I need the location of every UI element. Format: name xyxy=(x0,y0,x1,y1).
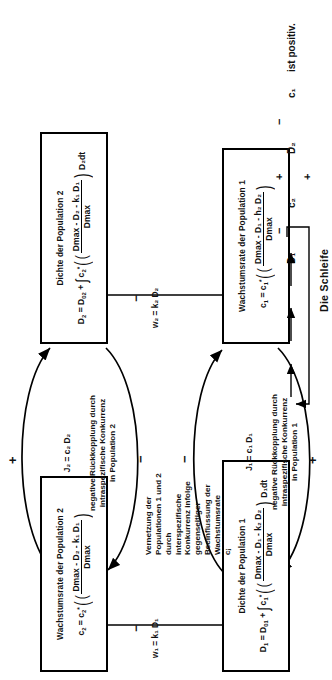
equation-denominator: Dmax xyxy=(82,543,92,570)
equation-numerator: Dmax - D₂ - k₁ D₁ xyxy=(72,520,83,593)
schleife-node-3: c₁ xyxy=(286,88,297,98)
schleife-figure: Die Schleife D₁ c₂ D₂ c₁ ist positiv. − … xyxy=(0,110,332,530)
equation-denominator: Dmax xyxy=(264,531,274,558)
box-title: Dichte der Population 1 xyxy=(238,519,247,614)
schleife-conclusion: ist positiv. xyxy=(286,23,297,72)
box-equation: c2 = c2* (( Dmax - D₂ - k₁ D₁ Dmax ) xyxy=(72,512,92,635)
rotated-diagram-wrapper: Wachstumsrate der Population 2 c2 = c2* … xyxy=(0,0,332,680)
schleife-connectors xyxy=(0,110,332,530)
arrow-label-w1: w₁ = k₁ D₁ xyxy=(150,619,160,658)
sign-w1: − xyxy=(130,625,142,632)
diagram-canvas: Wachstumsrate der Population 2 c2 = c2* … xyxy=(0,0,332,680)
